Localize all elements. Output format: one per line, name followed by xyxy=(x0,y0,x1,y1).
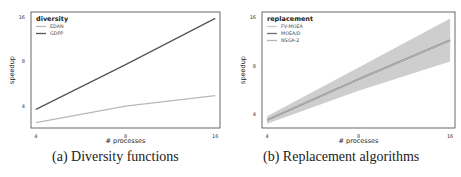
y-tick-label: 8 xyxy=(22,58,25,64)
x-axis-label: # processes xyxy=(339,137,379,145)
legend-entry: MOEA/D xyxy=(281,31,301,36)
diversity-chart-svg: 48164816# processesspeedupdiversityEDANG… xyxy=(0,0,230,145)
plot-frame xyxy=(31,12,220,128)
legend-entry: EDAN xyxy=(50,24,64,29)
legend-title: replacement xyxy=(267,15,313,23)
legend-title: diversity xyxy=(36,15,69,23)
replacement-chart-svg: 48164816# processesspeedupreplacementFV-… xyxy=(230,0,461,145)
x-tick-label: 16 xyxy=(447,133,453,139)
y-tick-label: 4 xyxy=(253,111,256,117)
x-axis-label: # processes xyxy=(106,137,146,145)
x-tick-label: 16 xyxy=(212,133,218,139)
y-tick-label: 16 xyxy=(250,14,256,20)
legend-entry: FV-MOEA xyxy=(281,24,303,29)
chart-diversity-functions: 48164816# processesspeedupdiversityEDANG… xyxy=(0,0,230,145)
y-tick-label: 16 xyxy=(19,14,25,20)
y-axis-label: speedup xyxy=(8,56,16,84)
y-axis-label: speedup xyxy=(239,56,247,84)
legend-entry: GDPP xyxy=(50,31,63,36)
y-tick-label: 8 xyxy=(253,63,256,69)
y-tick-label: 4 xyxy=(22,103,25,109)
caption-diversity-functions: (a) Diversity functions xyxy=(52,149,179,165)
x-tick-label: 4 xyxy=(265,133,268,139)
caption-replacement-algorithms: (b) Replacement algorithms xyxy=(263,149,419,165)
x-tick-label: 4 xyxy=(34,133,37,139)
chart-replacement-algorithms: 48164816# processesspeedupreplacementFV-… xyxy=(230,0,461,145)
legend-entry: NSGA-2 xyxy=(281,38,299,43)
